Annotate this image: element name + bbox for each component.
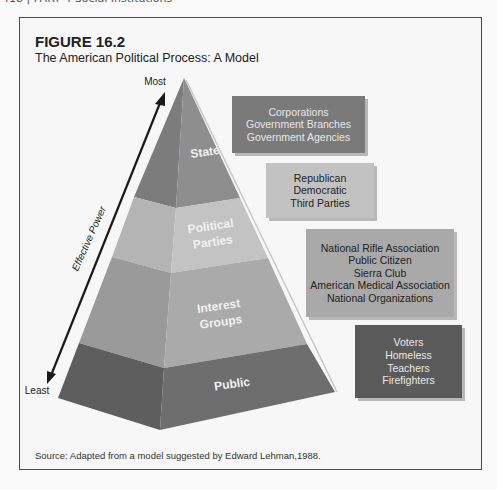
box-item: Firefighters	[382, 374, 435, 387]
box-item: Teachers	[387, 362, 430, 375]
box-public-examples: Voters Homeless Teachers Firefighters	[355, 325, 462, 398]
axis-label-most: Most	[144, 76, 166, 87]
box-item: Public Citizen	[348, 254, 412, 267]
axis-label-effective-power: Effective Power	[70, 204, 109, 273]
box-parties-examples: Republican Democratic Third Parties	[266, 163, 374, 218]
figure-source: Source: Adapted from a model suggested b…	[35, 450, 321, 461]
box-item: American Medical Association	[310, 279, 449, 292]
box-item: Government Agencies	[247, 131, 350, 144]
box-item: Sierra Club	[354, 267, 407, 280]
box-item: National Organizations	[327, 292, 433, 305]
arrowhead-up-icon	[155, 92, 165, 106]
box-item: Homeless	[385, 349, 432, 362]
box-item: Democratic	[293, 184, 346, 197]
box-item: Corporations	[268, 106, 328, 119]
pyramid-layer-state	[134, 78, 240, 208]
box-item: Voters	[394, 336, 424, 349]
box-interest-groups-examples: National Rifle Association Public Citize…	[306, 229, 454, 317]
box-item: Government Branches	[246, 118, 351, 131]
box-state-examples: Corporations Government Branches Governm…	[232, 96, 365, 153]
axis-label-least: Least	[25, 385, 50, 396]
arrowhead-down-icon	[47, 371, 56, 384]
box-item: National Rifle Association	[321, 242, 439, 255]
box-item: Republican	[294, 172, 347, 185]
box-item: Third Parties	[290, 197, 350, 210]
